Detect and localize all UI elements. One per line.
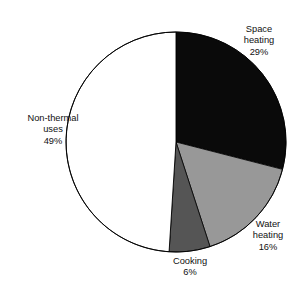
slice-label-water-heating: Water heating 16%: [238, 219, 298, 253]
slice-value-space-heating: 29%: [228, 47, 290, 58]
slice-label-non-thermal-line2: uses: [12, 124, 94, 135]
slice-value-cooking: 6%: [159, 267, 221, 278]
slice-value-non-thermal: 49%: [12, 136, 94, 147]
slice-label-space-heating: Space heating 29%: [228, 24, 290, 58]
slice-label-space-heating-line1: Space: [228, 24, 290, 35]
slice-label-non-thermal-line1: Non-thermal: [12, 113, 94, 124]
slice-label-space-heating-line2: heating: [228, 35, 290, 46]
slice-value-water-heating: 16%: [238, 242, 298, 253]
slice-label-water-heating-line1: Water: [238, 219, 298, 230]
slice-label-non-thermal-uses: Non-thermal uses 49%: [12, 113, 94, 147]
pie-chart-figure: Space heating 29% Water heating 16% Cook…: [0, 0, 302, 286]
slice-label-water-heating-line2: heating: [238, 230, 298, 241]
slice-label-cooking: Cooking 6%: [159, 256, 221, 279]
slice-label-cooking-line1: Cooking: [159, 256, 221, 267]
